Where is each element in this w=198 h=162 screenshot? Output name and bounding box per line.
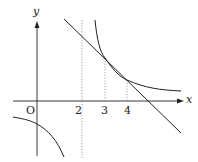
x-axis-label: x [186,94,192,105]
x-axis-arrow-icon [177,99,184,104]
graph-canvas [0,0,198,162]
hyperbola-left-branch [13,117,64,157]
y-axis-label: y [33,6,39,17]
y-axis-arrow-icon [35,21,40,28]
tick-label-3: 3 [101,105,108,116]
function-graph-diagram: y x O 2 3 4 [0,0,198,162]
hyperbola-right-branch [95,20,181,91]
tick-label-2: 2 [75,105,82,116]
tick-label-4: 4 [124,105,131,116]
origin-label: O [26,105,35,116]
